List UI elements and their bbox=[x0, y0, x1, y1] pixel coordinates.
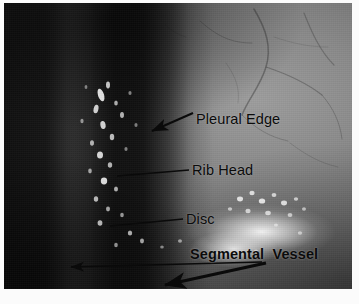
label-pleural-edge: Pleural Edge bbox=[196, 111, 280, 127]
annotation-overlay: Pleural Edge Rib Head Disc Segmental Ves… bbox=[0, 0, 359, 304]
label-rib-head: Rib Head bbox=[192, 162, 253, 178]
rib-head-leader-line bbox=[117, 170, 189, 176]
figure-container: Pleural Edge Rib Head Disc Segmental Ves… bbox=[0, 0, 359, 304]
segmental-vessel-arrow-diagonal bbox=[165, 263, 266, 285]
pleural-edge-arrow bbox=[152, 113, 193, 131]
segmental-vessel-arrow-horizontal bbox=[71, 262, 262, 267]
disc-leader-line bbox=[110, 219, 183, 226]
label-segmental-vessel: Segmental Vessel bbox=[190, 246, 318, 262]
label-disc: Disc bbox=[186, 211, 215, 227]
